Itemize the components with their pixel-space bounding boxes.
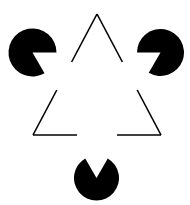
kanizsa-figure-canvas [0, 0, 190, 205]
kanizsa-triangle-illustration [0, 0, 190, 205]
